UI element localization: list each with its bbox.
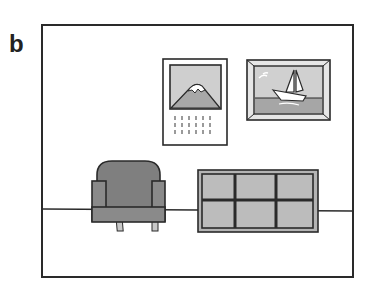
cabinet — [198, 170, 318, 232]
calendar — [163, 59, 227, 145]
framed-picture — [247, 60, 330, 120]
room-illustration — [0, 0, 383, 293]
armchair — [92, 161, 165, 231]
